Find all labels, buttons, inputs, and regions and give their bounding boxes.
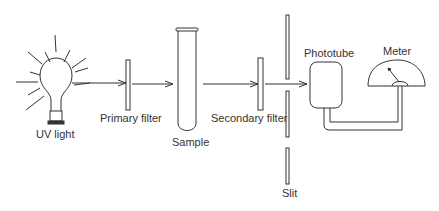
- meter-icon: [368, 60, 425, 86]
- label-sample: Sample: [172, 136, 209, 148]
- label-slit: Slit: [282, 187, 297, 199]
- label-uv-light: UV light: [36, 128, 75, 140]
- label-phototube: Phototube: [304, 47, 354, 59]
- light-rays-icon: [16, 35, 90, 110]
- label-meter: Meter: [383, 45, 411, 57]
- phototube: [310, 62, 402, 130]
- label-secondary-filter: Secondary filter: [211, 112, 287, 124]
- sample-tube: [176, 28, 198, 131]
- label-primary-filter: Primary filter: [100, 112, 162, 124]
- light-path: [72, 80, 307, 87]
- uv-light-bulb-icon: [40, 58, 72, 124]
- diagram-canvas: [0, 0, 439, 211]
- slit: [286, 15, 289, 184]
- primary-filter: [126, 60, 130, 110]
